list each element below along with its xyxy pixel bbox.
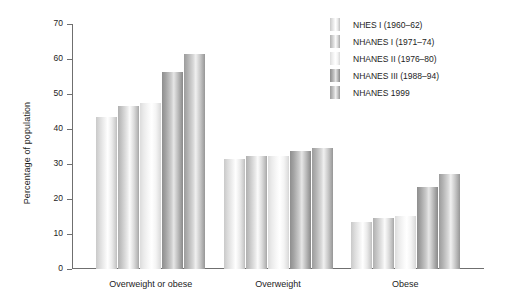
- legend-item[interactable]: NHANES 1999: [330, 84, 505, 101]
- legend-item-label: NHANES 1999: [353, 88, 410, 98]
- y-axis-tick: 30: [67, 164, 72, 165]
- y-axis-tick-label: 50: [54, 88, 63, 98]
- y-axis-tick-label: 20: [54, 193, 63, 203]
- bar[interactable]: [140, 103, 161, 269]
- bar-fill: [417, 187, 438, 269]
- y-axis-line: [72, 24, 73, 269]
- bar-chart: Percentage of population 010203040506070…: [0, 0, 510, 304]
- legend-item-label: NHANES I (1971–74): [353, 37, 434, 47]
- bar[interactable]: [224, 159, 245, 269]
- legend-item-label: NHANES III (1988–94): [353, 71, 439, 81]
- bar-fill: [268, 156, 289, 269]
- y-axis-title: Percentage of population: [22, 63, 32, 243]
- bar[interactable]: [118, 106, 139, 269]
- y-axis-tick-label: 40: [54, 123, 63, 133]
- bar-fill: [246, 156, 267, 269]
- legend: NHES I (1960–62) NHANES I (1971–74) NHAN…: [330, 16, 505, 101]
- bar[interactable]: [373, 218, 394, 269]
- bar[interactable]: [246, 156, 267, 269]
- bar[interactable]: [96, 117, 117, 269]
- bar[interactable]: [395, 216, 416, 269]
- bar-fill: [96, 117, 117, 269]
- bar[interactable]: [417, 187, 438, 269]
- x-axis-category-label: Obese: [392, 279, 419, 289]
- bar[interactable]: [184, 54, 205, 269]
- bar[interactable]: [162, 72, 183, 269]
- legend-item-label: NHES I (1960–62): [353, 20, 422, 30]
- y-axis-tick-label: 30: [54, 158, 63, 168]
- legend-item[interactable]: NHANES II (1976–80): [330, 50, 505, 67]
- bar[interactable]: [290, 151, 311, 269]
- bar-fill: [312, 148, 333, 269]
- bar-group: [96, 24, 205, 269]
- y-axis-tick: 10: [67, 234, 72, 235]
- bar-fill: [395, 216, 416, 269]
- bar[interactable]: [351, 222, 372, 269]
- bar-fill: [140, 103, 161, 269]
- legend-swatch-icon: [330, 35, 340, 48]
- y-axis-tick: 70: [67, 24, 72, 25]
- x-axis-category-label: Overweight or obese: [109, 279, 192, 289]
- bar[interactable]: [312, 148, 333, 269]
- bar-fill: [184, 54, 205, 269]
- bar[interactable]: [268, 156, 289, 269]
- y-axis-tick: 50: [67, 94, 72, 95]
- y-axis-tick: 40: [67, 129, 72, 130]
- y-axis-tick-label: 60: [54, 53, 63, 63]
- legend-item-label: NHANES II (1976–80): [353, 54, 437, 64]
- bar-fill: [162, 72, 183, 269]
- bar[interactable]: [439, 174, 460, 269]
- x-axis-category-label: Overweight: [255, 279, 301, 289]
- bar-fill: [373, 218, 394, 269]
- legend-swatch-icon: [330, 69, 340, 82]
- legend-swatch-icon: [330, 86, 340, 99]
- y-axis-tick: 60: [67, 59, 72, 60]
- bar-group: [224, 24, 333, 269]
- legend-item[interactable]: NHANES III (1988–94): [330, 67, 505, 84]
- bar-fill: [439, 174, 460, 269]
- legend-item[interactable]: NHES I (1960–62): [330, 16, 505, 33]
- y-axis-tick-label: 70: [54, 18, 63, 28]
- bar-fill: [351, 222, 372, 269]
- y-axis-tick-label: 10: [54, 228, 63, 238]
- y-axis-tick: 0: [67, 269, 72, 270]
- bar-fill: [224, 159, 245, 269]
- y-axis-tick-label: 0: [58, 263, 63, 273]
- bar-fill: [118, 106, 139, 269]
- legend-swatch-icon: [330, 52, 340, 65]
- legend-swatch-icon: [330, 18, 340, 31]
- y-axis-tick: 20: [67, 199, 72, 200]
- bar-fill: [290, 151, 311, 269]
- legend-item[interactable]: NHANES I (1971–74): [330, 33, 505, 50]
